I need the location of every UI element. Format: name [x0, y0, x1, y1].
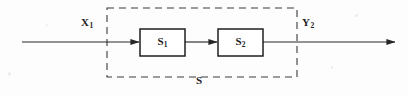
output-label: Y2 [302, 16, 314, 28]
block-s1-label-base: S [158, 35, 164, 47]
diagram-canvas [0, 0, 408, 95]
block-diagram-figure: X1 Y2 S1 S2 S [0, 0, 408, 95]
system-boundary-label: S [196, 74, 202, 86]
block-s2-label-base: S [236, 35, 242, 47]
block-s2-label: S2 [218, 35, 263, 47]
input-label-base: X [81, 16, 89, 28]
block-s2-label-subscript: 2 [242, 40, 246, 49]
output-label-subscript: 2 [310, 21, 314, 30]
block-s1-label: S1 [140, 35, 185, 47]
input-label: X1 [81, 16, 93, 28]
output-label-base: Y [302, 16, 310, 28]
block-s1-label-subscript: 1 [164, 40, 168, 49]
input-label-subscript: 1 [89, 21, 93, 30]
